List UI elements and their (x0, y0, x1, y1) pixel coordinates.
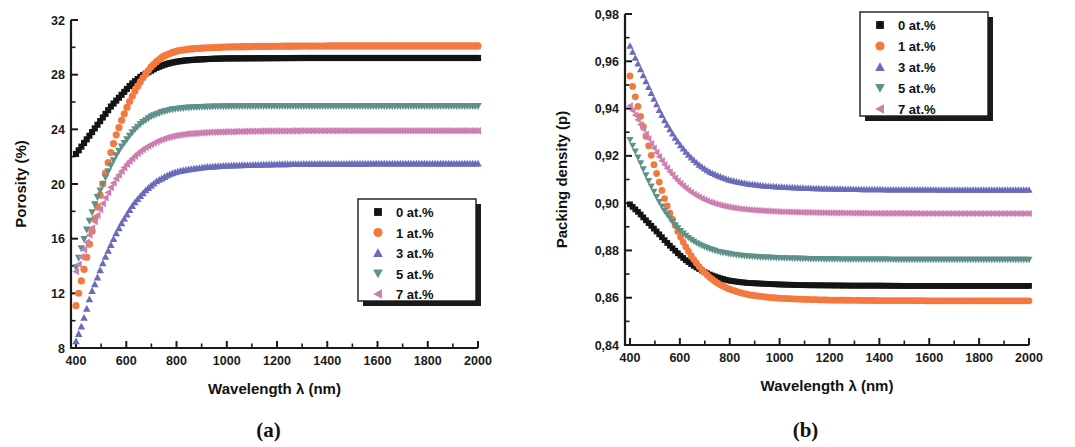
y-tick-label: 0,90 (595, 197, 619, 211)
legend-label: 5 at.% (396, 267, 434, 282)
x-tick-label: 2000 (464, 354, 492, 368)
data-point (656, 179, 663, 186)
data-point (634, 60, 641, 66)
data-point (102, 253, 110, 260)
legend-marker-1-at- (875, 41, 884, 50)
y-tick-label: 12 (51, 287, 65, 301)
x-tick-label: 400 (620, 351, 641, 365)
legend-label: 7 at.% (396, 287, 434, 302)
data-point (121, 110, 128, 117)
data-point (640, 166, 647, 172)
x-tick-label: 1600 (915, 351, 943, 365)
data-point (104, 247, 112, 254)
data-point (632, 93, 639, 100)
y-tick-label: 32 (51, 14, 65, 28)
legend-label: 1 at.% (898, 39, 936, 54)
data-point (86, 295, 94, 302)
y-tick-label: 8 (58, 342, 65, 356)
data-point (1026, 297, 1033, 304)
legend-label: 1 at.% (396, 226, 434, 241)
packing-density-plot: 0,840,860,880,900,920,940,960,9840060080… (537, 0, 1074, 447)
data-point (107, 241, 115, 248)
data-point (640, 72, 647, 78)
y-tick-label: 0,88 (595, 244, 619, 258)
panel-a-caption: (a) (0, 418, 537, 443)
legend-label: 7 at.% (898, 102, 936, 117)
data-point (653, 101, 660, 107)
data-point (626, 137, 633, 143)
data-point (626, 42, 633, 48)
data-point (474, 42, 481, 49)
x-tick-label: 1200 (816, 351, 844, 365)
data-point (629, 83, 636, 90)
panel-b: 0,840,860,880,900,920,940,960,9840060080… (537, 0, 1074, 447)
x-tick-label: 600 (116, 354, 137, 368)
data-point (113, 131, 120, 138)
x-tick-label: 1400 (313, 354, 341, 368)
data-point (99, 259, 107, 266)
x-tick-label: 1200 (263, 354, 291, 368)
data-point (83, 305, 91, 312)
data-point (635, 103, 642, 110)
legend-label: 3 at.% (396, 246, 434, 261)
x-tick-label: 1400 (865, 351, 893, 365)
y-tick-label: 28 (51, 68, 65, 82)
data-point (632, 149, 639, 155)
data-point (110, 235, 118, 242)
y-tick-label: 0,84 (595, 339, 619, 353)
data-point (629, 48, 636, 54)
data-point (75, 290, 82, 297)
legend-label: 0 at.% (396, 205, 434, 220)
data-point (651, 161, 658, 168)
data-point (1026, 283, 1032, 289)
data-point (629, 143, 636, 149)
data-point (632, 54, 639, 60)
data-point (110, 140, 117, 147)
data-point (88, 287, 96, 294)
panel-a: 8121620242832400600800100012001400160018… (0, 0, 537, 447)
y-tick-label: 0,86 (595, 291, 619, 305)
data-point (648, 89, 655, 95)
data-point (78, 323, 86, 330)
data-point (102, 174, 110, 181)
x-tick-label: 1000 (213, 354, 241, 368)
data-point (475, 55, 481, 61)
legend-label: 0 at.% (898, 18, 936, 33)
y-tick-label: 24 (51, 123, 65, 137)
x-tick-label: 1800 (965, 351, 993, 365)
data-point (648, 152, 655, 159)
y-tick-label: 0,96 (595, 55, 619, 69)
data-point (118, 117, 125, 124)
porosity-plot: 8121620242832400600800100012001400160018… (0, 0, 537, 447)
legend-marker-0-at- (876, 21, 884, 29)
data-point (80, 314, 88, 321)
data-point (645, 84, 652, 90)
data-point (115, 124, 122, 131)
y-tick-label: 16 (51, 232, 65, 246)
legend-label: 3 at.% (898, 60, 936, 75)
x-tick-label: 600 (669, 351, 690, 365)
figure-container: 8121620242832400600800100012001400160018… (0, 0, 1075, 447)
legend-label: 5 at.% (898, 81, 936, 96)
data-point (661, 195, 668, 202)
data-point (634, 154, 641, 160)
y-axis-title: Packing density (p) (553, 111, 570, 249)
x-axis-title: Wavelength λ (nm) (761, 377, 894, 394)
legend-marker-1-at- (373, 228, 382, 237)
x-tick-label: 2000 (1015, 351, 1043, 365)
data-point (72, 302, 79, 309)
data-point (96, 266, 104, 273)
data-point (653, 170, 660, 177)
x-tick-label: 1000 (766, 351, 794, 365)
data-point (627, 73, 634, 80)
x-tick-label: 800 (166, 354, 187, 368)
data-point (78, 277, 85, 284)
data-point (94, 274, 102, 281)
data-point (72, 337, 80, 344)
legend-marker-0-at- (374, 208, 382, 216)
data-point (650, 95, 657, 101)
y-tick-label: 0,94 (595, 102, 619, 116)
data-point (645, 178, 652, 184)
data-point (91, 281, 99, 288)
x-axis-title: Wavelength λ (nm) (208, 380, 341, 397)
